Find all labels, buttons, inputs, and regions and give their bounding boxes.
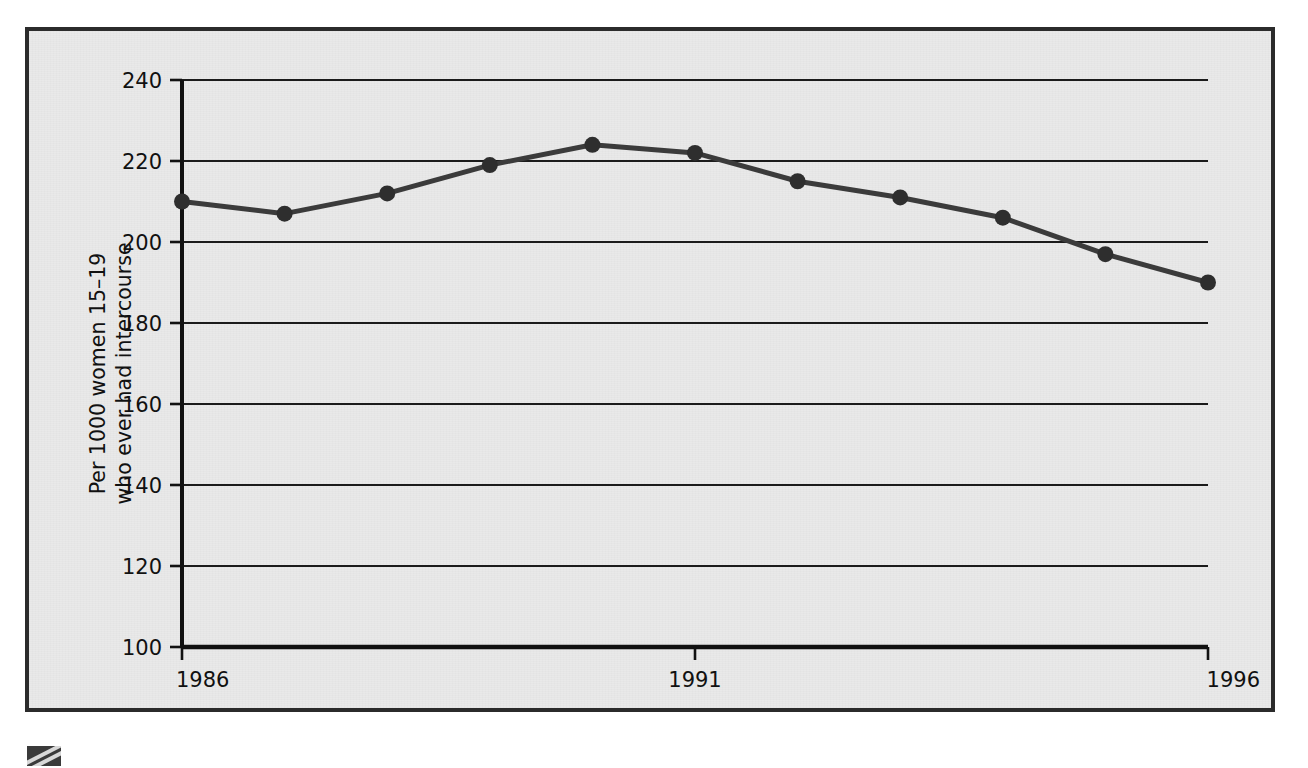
data-point-1991 <box>687 145 703 161</box>
x-tick-label-1991: 1991 <box>668 668 721 692</box>
x-axis <box>182 647 1208 660</box>
data-point-1986 <box>174 194 190 210</box>
x-tick-label-1986: 1986 <box>176 668 229 692</box>
y-tick-label-120: 120 <box>122 555 162 579</box>
y-axis-title: Per 1000 women 15–19who ever had interco… <box>86 242 136 504</box>
line-chart: 100120140160180200220240 198619911996 Pe… <box>0 0 1308 768</box>
data-point-1992 <box>790 173 806 189</box>
data-point-1993 <box>892 189 908 205</box>
y-axis-title-line-1: Per 1000 women 15–19 <box>86 253 110 495</box>
x-tick-label-1996: 1996 <box>1207 668 1260 692</box>
y-axis <box>170 80 182 647</box>
y-tick-label-220: 220 <box>122 150 162 174</box>
data-point-1987 <box>277 206 293 222</box>
data-point-1995 <box>1097 246 1113 262</box>
data-point-1994 <box>995 210 1011 226</box>
y-tick-label-100: 100 <box>122 636 162 660</box>
data-point-1996 <box>1200 275 1216 291</box>
figure-root: 100120140160180200220240 198619911996 Pe… <box>0 0 1308 768</box>
page-corner-mark <box>27 746 61 766</box>
series-line <box>182 145 1208 283</box>
data-markers <box>174 137 1216 291</box>
data-point-1989 <box>482 157 498 173</box>
x-tick-labels: 198619911996 <box>176 668 1260 692</box>
data-point-1990 <box>584 137 600 153</box>
y-tick-label-240: 240 <box>122 69 162 93</box>
data-point-1988 <box>379 185 395 201</box>
y-axis-title-line-2: who ever had intercourse <box>112 242 136 504</box>
data-line <box>182 145 1208 283</box>
